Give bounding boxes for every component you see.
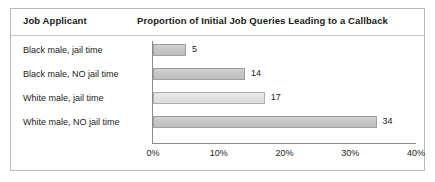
x-tick-label-4: 40% xyxy=(407,148,425,158)
category-label-2: White male, jail time xyxy=(23,93,104,103)
chart-figure: Job Applicant Proportion of Initial Job … xyxy=(10,8,425,171)
plot-area: Black male, jail time Black male, NO jai… xyxy=(11,36,424,170)
bar-value-3: 34 xyxy=(383,116,393,126)
bar-black-male-jail-time xyxy=(153,44,186,56)
bar-black-male-no-jail-time xyxy=(153,68,245,80)
bar-value-1: 14 xyxy=(251,68,261,78)
category-label-0: Black male, jail time xyxy=(23,45,103,55)
x-tick-label-2: 20% xyxy=(275,148,293,158)
bar-value-2: 17 xyxy=(271,92,281,102)
column-header-job-applicant: Job Applicant xyxy=(23,15,87,26)
bar-white-male-no-jail-time xyxy=(153,116,377,128)
category-label-1: Black male, NO jail time xyxy=(23,69,119,79)
category-label-3: White male, NO jail time xyxy=(23,117,120,127)
figure-header: Job Applicant Proportion of Initial Job … xyxy=(11,9,424,35)
x-tick-label-3: 30% xyxy=(341,148,359,158)
bar-white-male-jail-time xyxy=(153,92,265,104)
x-axis-line xyxy=(152,143,416,144)
chart-title: Proportion of Initial Job Queries Leadin… xyxy=(137,15,388,26)
x-tick-label-1: 10% xyxy=(210,148,228,158)
bar-value-0: 5 xyxy=(192,44,197,54)
x-tick-label-0: 0% xyxy=(146,148,159,158)
